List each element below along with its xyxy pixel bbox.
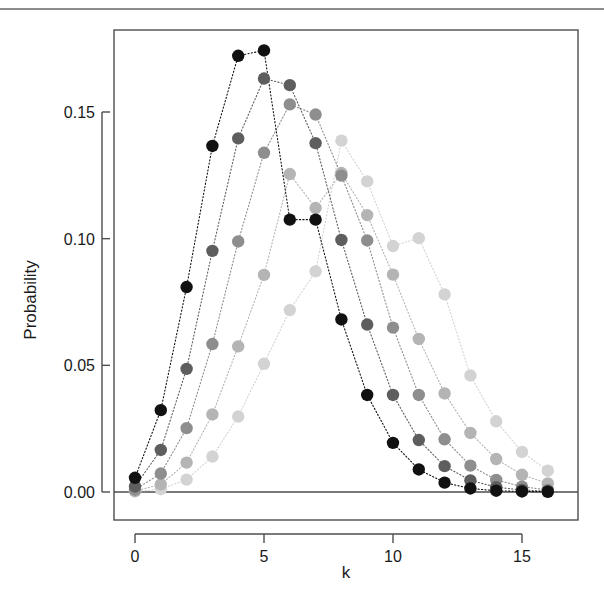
figure-page: 0.000.050.100.15051015 Probability k — [0, 0, 604, 594]
data-point-lambda-5.5-k5 — [258, 72, 270, 84]
data-point-lambda-6.5-k10 — [387, 321, 399, 333]
data-point-lambda-8.5-k7 — [309, 265, 321, 277]
data-point-lambda-4.5-k10 — [387, 437, 399, 449]
data-point-lambda-7.5-k14 — [490, 453, 502, 465]
data-point-lambda-5.5-k12 — [438, 460, 450, 472]
x-tick-label: 0 — [131, 548, 140, 565]
data-point-lambda-5.5-k9 — [361, 318, 373, 330]
data-point-lambda-4.5-k11 — [413, 463, 425, 475]
data-point-lambda-4.5-k9 — [361, 389, 373, 401]
y-axis-title: Probability — [21, 260, 40, 340]
x-tick-label: 10 — [384, 548, 402, 565]
data-point-lambda-7.5-k1 — [155, 478, 167, 490]
data-point-lambda-7.5-k12 — [438, 387, 450, 399]
data-point-lambda-5.5-k6 — [284, 79, 296, 91]
data-point-lambda-7.5-k7 — [309, 202, 321, 214]
data-point-lambda-7.5-k2 — [180, 456, 192, 468]
data-point-lambda-8.5-k3 — [206, 450, 218, 462]
data-point-lambda-8.5-k6 — [284, 304, 296, 316]
data-point-lambda-8.5-k11 — [413, 232, 425, 244]
data-point-lambda-7.5-k3 — [206, 408, 218, 420]
data-point-lambda-5.5-k1 — [155, 444, 167, 456]
data-point-lambda-8.5-k14 — [490, 415, 502, 427]
data-point-lambda-7.5-k6 — [284, 168, 296, 180]
data-point-lambda-7.5-k11 — [413, 333, 425, 345]
data-point-lambda-8.5-k4 — [232, 410, 244, 422]
x-tick-label: 15 — [513, 548, 531, 565]
data-point-lambda-4.5-k16 — [542, 486, 554, 498]
data-point-lambda-7.5-k4 — [232, 340, 244, 352]
data-point-lambda-4.5-k5 — [258, 44, 270, 56]
data-point-lambda-7.5-k5 — [258, 269, 270, 281]
data-point-lambda-6.5-k4 — [232, 235, 244, 247]
data-point-lambda-4.5-k15 — [516, 485, 528, 497]
y-tick-label: 0.05 — [64, 357, 95, 374]
y-tick-label: 0.15 — [64, 104, 95, 121]
data-point-lambda-7.5-k15 — [516, 469, 528, 481]
series-line-lambda-7.5 — [135, 173, 548, 491]
data-point-lambda-6.5-k9 — [361, 234, 373, 246]
data-point-lambda-5.5-k7 — [309, 137, 321, 149]
data-point-lambda-5.5-k8 — [335, 234, 347, 246]
plot-frame — [114, 30, 578, 520]
data-point-lambda-8.5-k8 — [335, 134, 347, 146]
data-point-lambda-6.5-k13 — [464, 459, 476, 471]
data-point-lambda-6.5-k6 — [284, 98, 296, 110]
data-point-lambda-6.5-k1 — [155, 467, 167, 479]
data-point-lambda-5.5-k3 — [206, 245, 218, 257]
x-axis-title: k — [342, 563, 351, 582]
y-tick-label: 0.00 — [64, 484, 95, 501]
data-point-lambda-5.5-k10 — [387, 389, 399, 401]
data-point-lambda-4.5-k2 — [180, 281, 192, 293]
data-point-lambda-7.5-k10 — [387, 268, 399, 280]
data-point-lambda-7.5-k9 — [361, 209, 373, 221]
data-point-lambda-6.5-k7 — [309, 108, 321, 120]
data-point-lambda-8.5-k16 — [542, 465, 554, 477]
data-point-lambda-6.5-k5 — [258, 147, 270, 159]
data-point-lambda-4.5-k14 — [490, 485, 502, 497]
data-point-lambda-8.5-k15 — [516, 446, 528, 458]
data-point-lambda-6.5-k12 — [438, 433, 450, 445]
data-point-lambda-5.5-k4 — [232, 132, 244, 144]
data-point-lambda-6.5-k11 — [413, 389, 425, 401]
data-point-lambda-8.5-k9 — [361, 175, 373, 187]
data-point-lambda-6.5-k8 — [335, 169, 347, 181]
data-point-lambda-4.5-k6 — [284, 213, 296, 225]
data-point-lambda-7.5-k13 — [464, 427, 476, 439]
data-point-lambda-8.5-k12 — [438, 288, 450, 300]
data-point-lambda-4.5-k0 — [129, 472, 141, 484]
series-line-lambda-6.5 — [135, 104, 548, 490]
data-point-lambda-4.5-k4 — [232, 50, 244, 62]
data-point-lambda-8.5-k10 — [387, 240, 399, 252]
data-point-lambda-5.5-k11 — [413, 434, 425, 446]
data-point-lambda-5.5-k2 — [180, 363, 192, 375]
data-point-lambda-8.5-k13 — [464, 369, 476, 381]
data-point-lambda-4.5-k1 — [155, 404, 167, 416]
x-tick-label: 5 — [260, 548, 269, 565]
data-point-lambda-4.5-k13 — [464, 482, 476, 494]
data-point-lambda-8.5-k2 — [180, 473, 192, 485]
y-tick-label: 0.10 — [64, 231, 95, 248]
data-point-lambda-8.5-k5 — [258, 358, 270, 370]
data-point-lambda-4.5-k7 — [309, 213, 321, 225]
data-point-lambda-6.5-k2 — [180, 422, 192, 434]
poisson-probability-chart: 0.000.050.100.15051015 Probability k — [0, 0, 604, 594]
data-point-lambda-4.5-k12 — [438, 476, 450, 488]
data-point-lambda-4.5-k8 — [335, 313, 347, 325]
series-line-lambda-4.5 — [135, 50, 548, 491]
data-point-lambda-4.5-k3 — [206, 140, 218, 152]
data-point-lambda-6.5-k3 — [206, 338, 218, 350]
